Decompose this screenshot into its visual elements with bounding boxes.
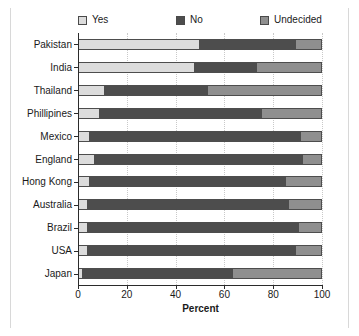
y-axis-label-thailand: Thailand bbox=[0, 85, 72, 96]
legend-item-no: No bbox=[176, 13, 203, 27]
chart-legend: Yes No Undecided bbox=[78, 13, 322, 27]
x-axis-tick-labels: 020406080100 bbox=[78, 289, 323, 303]
x-axis-tick-label: 0 bbox=[75, 289, 81, 300]
legend-item-undecided: Undecided bbox=[260, 13, 322, 27]
legend-swatch-undecided bbox=[260, 16, 269, 25]
x-axis-tick-label: 40 bbox=[170, 289, 181, 300]
x-axis-title: Percent bbox=[78, 303, 323, 314]
y-axis-label-india: India bbox=[0, 62, 72, 73]
chart-figure: Yes No Undecided PakistanIndiaThailandPh… bbox=[0, 0, 359, 336]
y-axis-label-brazil: Brazil bbox=[0, 222, 72, 233]
y-axis-label-australia: Australia bbox=[0, 199, 72, 210]
x-axis-line bbox=[78, 285, 323, 286]
x-axis-tick-label: 100 bbox=[314, 289, 331, 300]
y-axis-labels: PakistanIndiaThailandPhillipinesMexicoEn… bbox=[0, 33, 359, 285]
x-axis-tick-label: 20 bbox=[121, 289, 132, 300]
y-axis-label-england: England bbox=[0, 154, 72, 165]
legend-label-no: No bbox=[190, 15, 203, 25]
legend-label-undecided: Undecided bbox=[274, 15, 322, 25]
legend-item-yes: Yes bbox=[78, 13, 108, 27]
x-axis-tick-label: 80 bbox=[268, 289, 279, 300]
y-axis-label-usa: USA bbox=[0, 245, 72, 256]
y-axis-label-mexico: Mexico bbox=[0, 131, 72, 142]
legend-label-yes: Yes bbox=[92, 15, 108, 25]
legend-swatch-no bbox=[176, 16, 185, 25]
x-axis-tick-label: 60 bbox=[219, 289, 230, 300]
y-axis-label-phillipines: Phillipines bbox=[0, 108, 72, 119]
y-axis-label-hong-kong: Hong Kong bbox=[0, 176, 72, 187]
y-axis-label-japan: Japan bbox=[0, 268, 72, 279]
y-axis-label-pakistan: Pakistan bbox=[0, 39, 72, 50]
legend-swatch-yes bbox=[78, 16, 87, 25]
